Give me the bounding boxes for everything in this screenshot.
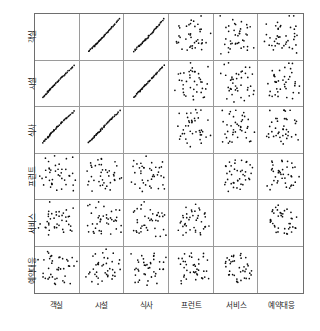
scatter-plot-matrix-figure: 객실 시설 식사 프런트 서비스 예약대응 객실 시설 식사 프런트 서비스 예…	[0, 0, 320, 331]
splom-cell-예약대응-vs-시설	[258, 61, 303, 108]
splom-cell-프런트-vs-서비스	[169, 200, 214, 247]
splom-cell-식사-vs-시설	[124, 61, 169, 108]
x-axis-label-row: 객실 시설 식사 프런트 서비스 예약대응	[34, 296, 304, 312]
splom-cell-예약대응-vs-프런트	[258, 154, 303, 201]
x-axis-label-4: 서비스	[214, 296, 259, 312]
splom-cell-예약대응-vs-서비스	[258, 200, 303, 247]
x-axis-label-1: 시설	[79, 296, 124, 312]
splom-cell-diagonal-4-4	[214, 200, 259, 247]
splom-cell-식사-vs-예약대응	[124, 247, 169, 294]
splom-cell-예약대응-vs-식사	[258, 107, 303, 154]
splom-cell-프런트-vs-객실	[169, 14, 214, 61]
splom-cell-서비스-vs-시설	[214, 61, 259, 108]
x-axis-label-0: 객실	[34, 296, 79, 312]
y-axis-label-text-5: 예약대응	[26, 257, 37, 284]
splom-cell-시설-vs-예약대응	[80, 247, 125, 294]
y-axis-label-text-4: 서비스	[26, 214, 37, 234]
splom-cell-diagonal-1-1	[80, 61, 125, 108]
x-axis-label-2: 식사	[124, 296, 169, 312]
splom-cell-서비스-vs-식사	[214, 107, 259, 154]
splom-cell-식사-vs-서비스	[124, 200, 169, 247]
splom-cell-서비스-vs-예약대응	[214, 247, 259, 294]
splom-cell-서비스-vs-프런트	[214, 154, 259, 201]
splom-cell-프런트-vs-예약대응	[169, 247, 214, 294]
splom-cell-서비스-vs-객실	[214, 14, 259, 61]
y-axis-label-1: 시설	[18, 60, 45, 107]
splom-cell-시설-vs-서비스	[80, 200, 125, 247]
splom-cell-diagonal-2-2	[124, 107, 169, 154]
y-axis-label-column: 객실 시설 식사 프런트 서비스 예약대응	[18, 13, 34, 294]
splom-cell-diagonal-5-5	[258, 247, 303, 294]
splom-cell-식사-vs-객실	[124, 14, 169, 61]
y-axis-label-4: 서비스	[18, 200, 45, 247]
splom-cell-시설-vs-객실	[80, 14, 125, 61]
splom-cell-diagonal-3-3	[169, 154, 214, 201]
y-axis-label-text-0: 객실	[26, 30, 37, 44]
y-axis-label-text-2: 식사	[26, 123, 37, 137]
y-axis-label-0: 객실	[18, 13, 45, 60]
y-axis-label-text-3: 프런트	[26, 167, 37, 187]
splom-cell-프런트-vs-식사	[169, 107, 214, 154]
y-axis-label-3: 프런트	[18, 153, 45, 200]
x-axis-label-5: 예약대응	[259, 296, 304, 312]
y-axis-label-text-1: 시설	[26, 76, 37, 90]
x-axis-label-3: 프런트	[169, 296, 214, 312]
splom-grid	[34, 13, 304, 294]
y-axis-label-2: 식사	[18, 107, 45, 154]
splom-cell-시설-vs-프런트	[80, 154, 125, 201]
splom-cell-프런트-vs-시설	[169, 61, 214, 108]
splom-cell-예약대응-vs-객실	[258, 14, 303, 61]
splom-cell-시설-vs-식사	[80, 107, 125, 154]
y-axis-label-5: 예약대응	[18, 247, 45, 294]
splom-cell-식사-vs-프런트	[124, 154, 169, 201]
